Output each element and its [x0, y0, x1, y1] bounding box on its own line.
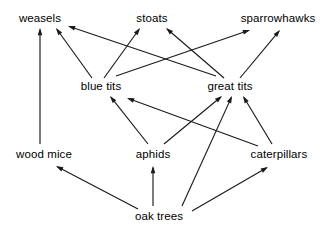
- node-label-caterpillars: caterpillars: [251, 148, 308, 161]
- node-label-sparrowhawks: sparrowhawks: [241, 12, 316, 25]
- arrowhead-icon: [134, 28, 140, 35]
- node-label-oak-trees: oak trees: [135, 210, 183, 223]
- food-web-diagram: weasels stoats sparrowhawks blue tits gr…: [0, 0, 325, 234]
- arrowhead-icon: [243, 96, 249, 103]
- arrowhead-icon: [227, 96, 232, 104]
- arrowhead-icon: [56, 28, 62, 35]
- arrowhead-icon: [68, 26, 76, 31]
- arrowhead-icon: [242, 30, 250, 35]
- arrowhead-icon: [56, 166, 63, 171]
- food-web-arrow: [127, 98, 258, 146]
- food-web-arrow: [56, 28, 92, 78]
- food-web-arrow: [116, 30, 250, 76]
- food-web-arrow: [166, 28, 224, 78]
- food-web-arrow: [243, 96, 272, 144]
- food-web-arrow: [38, 28, 43, 144]
- node-label-blue-tits: blue tits: [81, 80, 122, 93]
- food-web-arrow: [240, 30, 280, 78]
- node-label-weasels: weasels: [19, 12, 61, 25]
- food-web-arrow: [151, 166, 156, 206]
- node-label-aphids: aphids: [136, 148, 171, 161]
- arrowhead-icon: [38, 28, 43, 35]
- food-web-arrow: [68, 26, 216, 76]
- food-web-arrow: [192, 167, 268, 211]
- food-web-arrows: [0, 0, 325, 234]
- node-label-wood-mice: wood mice: [16, 148, 72, 161]
- arrowhead-icon: [127, 98, 135, 103]
- node-label-stoats: stoats: [136, 12, 167, 25]
- arrowhead-icon: [151, 166, 156, 173]
- food-web-arrow: [56, 166, 138, 209]
- food-web-arrow: [182, 96, 232, 206]
- arrowhead-icon: [261, 167, 268, 173]
- food-web-arrow: [104, 28, 140, 78]
- node-label-great-tits: great tits: [207, 80, 252, 93]
